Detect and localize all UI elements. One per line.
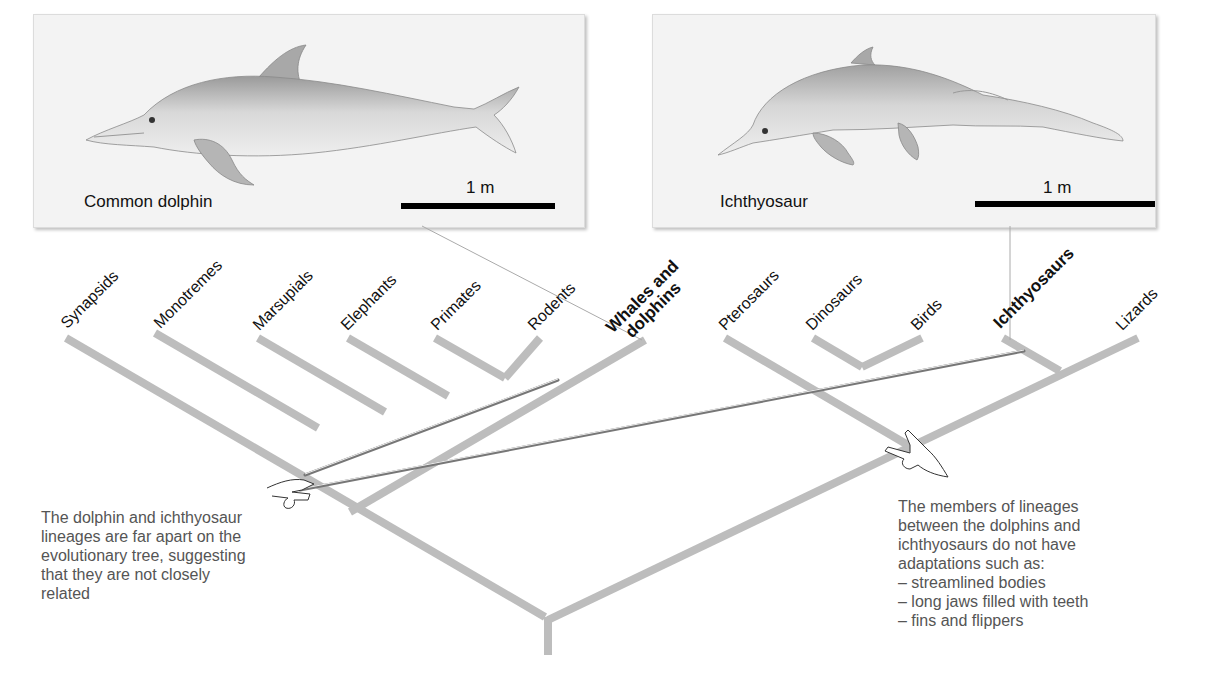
right-caption-line: – streamlined bodies (898, 573, 1088, 592)
right-caption-line: adaptations such as: (898, 554, 1088, 573)
right-caption: The members of lineages between the dolp… (898, 497, 1088, 630)
right-caption-line: – fins and flippers (898, 611, 1088, 630)
left-caption-line: The dolphin and ichthyosaur (41, 508, 246, 527)
left-caption-line: evolutionary tree, suggesting (41, 546, 246, 565)
right-caption-line: between the dolphins and (898, 516, 1088, 535)
left-caption-line: that they are not closely (41, 565, 246, 584)
hand-holding-pointers-icon (262, 470, 332, 520)
right-caption-line: The members of lineages (898, 497, 1088, 516)
right-caption-line: – long jaws filled with teeth (898, 592, 1088, 611)
left-caption-line: lineages are far apart on the (41, 527, 246, 546)
left-caption-line: related (41, 584, 246, 603)
hand-pointing-icon (880, 425, 950, 485)
right-caption-line: ichthyosaurs do not have (898, 535, 1088, 554)
left-caption: The dolphin and ichthyosaur lineages are… (41, 508, 246, 603)
